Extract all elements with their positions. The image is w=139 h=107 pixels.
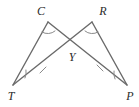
vertex-label-P: P bbox=[125, 89, 134, 103]
vertex-label-R: R bbox=[98, 4, 107, 18]
vertex-label-C: C bbox=[37, 4, 46, 18]
geometry-canvas: C R Y T P bbox=[0, 0, 139, 107]
geometry-figure: C R Y T P bbox=[0, 0, 139, 107]
